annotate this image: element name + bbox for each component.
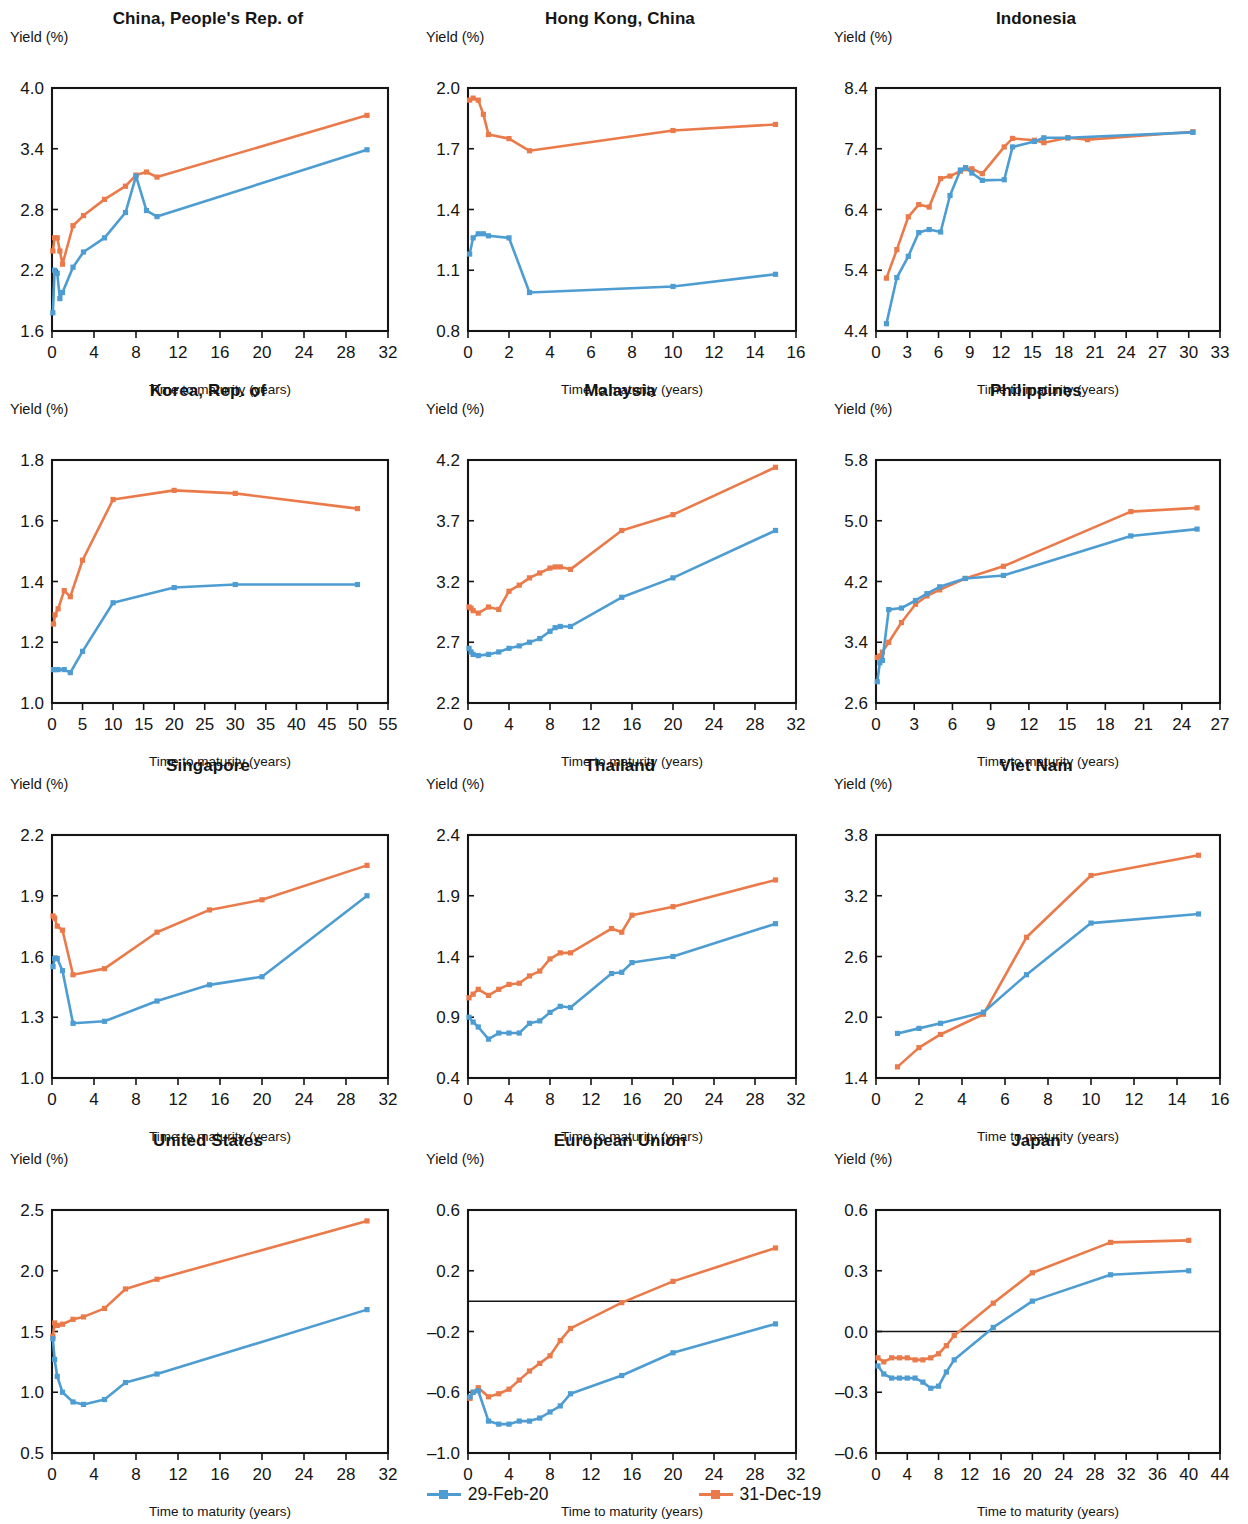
x-tick-label: 6 [586, 343, 595, 362]
series-marker [619, 930, 624, 935]
series-marker [619, 595, 624, 600]
series-marker [609, 926, 614, 931]
series-marker [927, 227, 932, 232]
series-marker [937, 584, 942, 589]
series-marker [889, 1375, 894, 1380]
series-marker [70, 1021, 75, 1026]
series-marker [875, 679, 880, 684]
x-tick-label: 40 [287, 715, 306, 734]
chart-panel: JapanYield (%)–0.6–0.30.00.30.6048121620… [824, 1122, 1248, 1504]
y-tick-label: 2.2 [20, 826, 44, 845]
series-marker [924, 591, 929, 596]
x-tick-label: 33 [1211, 343, 1230, 362]
x-tick-label: 8 [131, 1465, 140, 1484]
x-tick-label: 24 [705, 715, 724, 734]
y-tick-label: 5.8 [844, 451, 868, 470]
series-marker [476, 987, 481, 992]
series-marker [60, 262, 65, 267]
series-marker [670, 1350, 675, 1355]
series-marker [629, 913, 634, 918]
y-tick-label: –1.0 [427, 1444, 460, 1463]
x-tick-label: 24 [295, 1090, 314, 1109]
series-marker [568, 567, 573, 572]
series-marker [670, 1279, 675, 1284]
x-tick-label: 21 [1085, 343, 1104, 362]
y-tick-label: 3.4 [20, 140, 44, 159]
series-marker [1128, 533, 1133, 538]
series-marker [537, 1018, 542, 1023]
x-tick-label: 14 [746, 343, 765, 362]
x-tick-label: 27 [1211, 715, 1230, 734]
x-tick-label: 10 [664, 343, 683, 362]
series-marker [496, 1391, 501, 1396]
series-marker [938, 1032, 943, 1037]
series-marker [958, 167, 963, 172]
x-tick-label: 12 [992, 343, 1011, 362]
y-tick-label: 3.2 [844, 887, 868, 906]
series-marker [912, 1357, 917, 1362]
x-tick-label: 35 [256, 715, 275, 734]
series-marker [884, 276, 889, 281]
series-marker [55, 924, 60, 929]
x-tick-label: 0 [871, 1090, 880, 1109]
series-marker [506, 1422, 511, 1427]
x-tick-label: 14 [1168, 1090, 1187, 1109]
series-marker [899, 620, 904, 625]
series-marker [558, 624, 563, 629]
series-line [53, 1310, 367, 1405]
x-tick-label: 9 [986, 715, 995, 734]
y-axis-label: Yield (%) [426, 29, 484, 45]
y-tick-label: 0.9 [436, 1008, 460, 1027]
series-marker [81, 1314, 86, 1319]
series-marker [102, 966, 107, 971]
series-marker [233, 582, 238, 587]
y-tick-label: 4.2 [436, 451, 460, 470]
series-marker [568, 1391, 573, 1396]
series-marker [517, 1378, 522, 1383]
chart-svg: 1.01.21.41.61.80510152025303540455055Tim… [0, 402, 416, 777]
series-marker [1002, 177, 1007, 182]
x-tick-label: 44 [1211, 1465, 1230, 1484]
series-marker [486, 132, 491, 137]
series-marker [70, 265, 75, 270]
y-tick-label: 0.6 [844, 1201, 868, 1220]
series-marker [920, 1357, 925, 1362]
series-marker [527, 1021, 532, 1026]
x-tick-label: 0 [463, 343, 472, 362]
series-marker [486, 1037, 491, 1042]
x-tick-label: 30 [226, 715, 245, 734]
chart-title: Malaysia [416, 372, 824, 402]
series-marker [963, 165, 968, 170]
x-tick-label: 0 [47, 343, 56, 362]
series-marker [670, 904, 675, 909]
chart-title: Philippines [824, 372, 1248, 402]
x-tick-label: 16 [211, 343, 230, 362]
series-marker [899, 605, 904, 610]
series-line [469, 467, 775, 613]
y-tick-label: 1.0 [20, 1383, 44, 1402]
series-marker [506, 235, 511, 240]
x-tick-label: 4 [903, 1465, 912, 1484]
series-marker [486, 604, 491, 609]
series-marker [928, 1386, 933, 1391]
x-tick-label: 28 [1085, 1465, 1104, 1484]
series-marker [110, 600, 115, 605]
chart-title: Singapore [0, 747, 416, 777]
series-marker [991, 1325, 996, 1330]
x-tick-label: 16 [787, 343, 806, 362]
series-marker [773, 122, 778, 127]
series-marker [506, 136, 511, 141]
x-tick-label: 8 [545, 1090, 554, 1109]
series-marker [51, 621, 56, 626]
chart-panel: ThailandYield (%)0.40.91.41.92.404812162… [416, 747, 824, 1122]
y-tick-label: 1.4 [436, 948, 460, 967]
series-marker [123, 1286, 128, 1291]
series-marker [68, 594, 73, 599]
series-marker [471, 652, 476, 657]
series-marker [981, 1010, 986, 1015]
series-marker [102, 1306, 107, 1311]
series-marker [496, 607, 501, 612]
chart-panel: PhilippinesYield (%)2.63.44.25.05.803691… [824, 372, 1248, 747]
x-tick-label: 20 [664, 1465, 683, 1484]
series-line [470, 98, 776, 151]
